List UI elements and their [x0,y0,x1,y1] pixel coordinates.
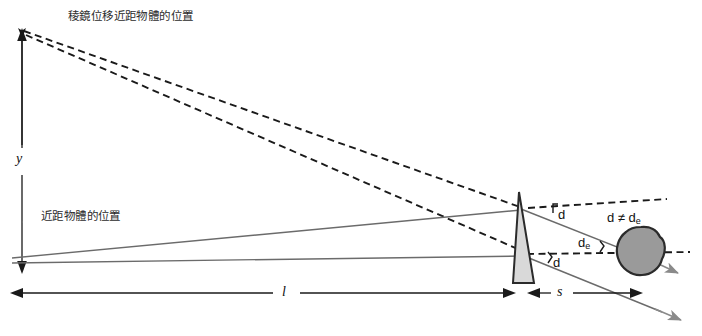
dimension-l [10,288,516,298]
label-y-distance: y [16,152,22,166]
label-near-object-position: 近距物體的位置 [41,211,121,223]
dashed-ray-virtual-upper [24,31,520,207]
eye [617,227,665,275]
label-angle-de-subscript: e [585,241,590,251]
dimension-l-arrowhead-right [503,288,516,298]
label-distance-l: l [282,285,286,299]
label-inequality-base: d ≠ d [607,210,636,225]
solid-ray-lower [12,256,524,263]
label-inequality: d ≠ de [607,211,641,224]
angle-marker-de [600,241,604,252]
optical-prism-diagram: 稜鏡位移近距物體的位置 近距物體的位置 y l s d d de d ≠ de [0,0,702,336]
label-prism-shifted-object-position: 稜鏡位移近距物體的位置 [68,11,193,23]
label-distance-s: s [557,285,562,299]
y-axis-arrowhead-up [17,28,27,41]
dashed-reference-upper [528,199,667,208]
diagram-canvas [0,0,702,336]
label-angle-de: de [578,236,590,249]
eye-globe [617,227,665,275]
label-angle-d-upper: d [558,208,565,221]
label-angle-d-lower: d [553,256,560,269]
dashed-ray-group [24,31,690,254]
dimension-s-arrowhead-right [630,288,643,298]
refracted-ray-lower-arrow [655,309,681,320]
label-inequality-subscript: e [636,216,641,226]
